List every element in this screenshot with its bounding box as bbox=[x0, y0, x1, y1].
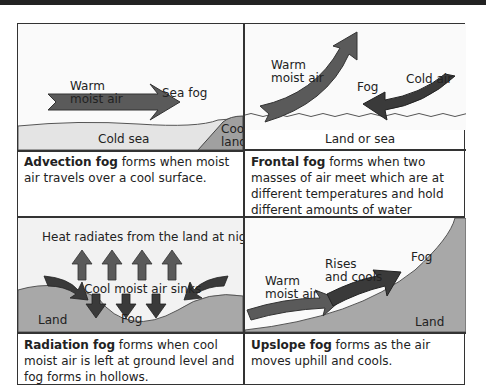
land-label: Land bbox=[38, 313, 67, 327]
warm-air-label-1: Warm bbox=[70, 79, 105, 93]
cold-sea-label: Cold sea bbox=[98, 132, 149, 146]
sea-fog-label: Sea fog bbox=[162, 86, 207, 100]
warm-air-label-2: moist air bbox=[271, 71, 324, 85]
warm-air-label-2: moist air bbox=[70, 92, 123, 106]
divider bbox=[18, 150, 243, 152]
radiation-panel: Heat radiates from the land at night Coo… bbox=[18, 218, 243, 332]
land-label: Land bbox=[415, 315, 444, 329]
advection-panel: Warm moist air Sea fog Cold sea Cool lan… bbox=[18, 24, 243, 150]
cool-land-label-1: Cool bbox=[221, 122, 243, 136]
cold-air-label: Cold air bbox=[406, 72, 452, 86]
land-or-sea-label: Land or sea bbox=[325, 132, 395, 146]
warm-air-label-1: Warm bbox=[271, 58, 306, 72]
top-bar bbox=[0, 0, 486, 5]
fog-label: Fog bbox=[121, 312, 142, 326]
warm-air-label-2: moist air bbox=[265, 287, 318, 301]
cool-air-sinks-label: Cool moist air sinks bbox=[84, 282, 201, 296]
frontal-panel: Warm moist air Fog Cold air bbox=[245, 24, 466, 130]
warm-air-label-1: Warm bbox=[265, 274, 300, 288]
fog-label: Fog bbox=[411, 250, 432, 264]
rises-label-1: Rises bbox=[325, 257, 357, 271]
upslope-panel: Warm moist air Rises and cools Fog Land bbox=[245, 218, 466, 332]
fog-types-diagram: Warm moist air Sea fog Cold sea Cool lan… bbox=[17, 23, 465, 385]
radiation-caption: Radiation fog forms when cool moist air … bbox=[18, 334, 243, 384]
rises-label-2: and cools bbox=[325, 270, 382, 284]
frontal-caption: Frontal fog forms when two masses of air… bbox=[245, 151, 466, 217]
cool-land-label-2: land bbox=[221, 135, 243, 149]
heat-radiates-label: Heat radiates from the land at night bbox=[42, 230, 243, 244]
fog-label: Fog bbox=[357, 80, 378, 94]
column-divider bbox=[243, 24, 245, 384]
advection-caption: Advection fog forms when moist air trave… bbox=[18, 151, 243, 217]
upslope-caption: Upslope fog forms as the air moves uphil… bbox=[245, 334, 466, 384]
